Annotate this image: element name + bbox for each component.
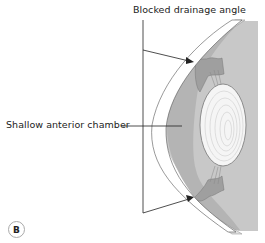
shallow-anterior-chamber-label: Shallow anterior chamber bbox=[6, 119, 130, 130]
leader-upper-arrow-line bbox=[143, 50, 189, 61]
blocked-drainage-angle-label: Blocked drainage angle bbox=[133, 4, 246, 15]
lens bbox=[200, 84, 246, 166]
panel-letter-badge: B bbox=[8, 221, 25, 238]
leader-lower-arrow-line bbox=[143, 199, 189, 213]
